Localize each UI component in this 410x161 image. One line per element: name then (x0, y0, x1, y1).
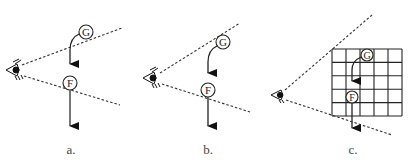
ball-g-label: G (82, 26, 90, 38)
ball-g-label: G (219, 36, 227, 48)
sight-line-lower (286, 100, 392, 135)
eye-icon (143, 67, 160, 88)
ball-f: F (63, 76, 77, 90)
sight-line-upper (160, 23, 240, 73)
panel-b: G F b. (143, 23, 250, 157)
arrow-down-icon (70, 34, 79, 64)
sight-line-upper (22, 28, 122, 65)
diagram-canvas: G F a. G F b. (0, 0, 410, 161)
ball-g-label: G (363, 50, 370, 61)
ball-f-label: F (349, 92, 355, 103)
ball-f-label: F (67, 77, 73, 89)
panel-caption: c. (348, 142, 357, 157)
ball-f: F (346, 91, 358, 103)
arrow-down-icon (208, 46, 217, 73)
eye-icon (6, 59, 23, 80)
ball-f-label: F (205, 84, 211, 96)
ball-f: F (201, 83, 215, 97)
panel-c: G F c. (271, 15, 402, 157)
ball-g: G (361, 49, 373, 61)
sight-line-upper (285, 15, 372, 90)
panel-caption: b. (203, 142, 213, 157)
panel-caption: a. (66, 142, 75, 157)
panel-a: G F a. (6, 25, 122, 157)
ball-g: G (216, 35, 230, 49)
eye-icon (271, 90, 284, 103)
ball-g: G (79, 25, 93, 39)
